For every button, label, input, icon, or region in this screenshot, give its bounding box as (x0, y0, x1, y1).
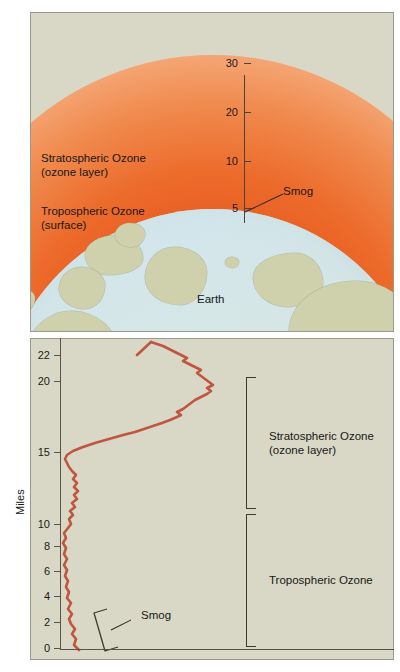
profile-x-axis-line (60, 649, 394, 650)
altitude-tick-10 (244, 161, 251, 162)
earth-label: Earth (197, 293, 225, 305)
y-tick-20 (54, 381, 61, 382)
y-label-22: 22 (18, 349, 50, 361)
altitude-label-20: 20 (210, 106, 238, 118)
altitude-tick-20 (244, 112, 251, 113)
y-tick-15 (54, 452, 61, 453)
smog-label-bottom: Smog (141, 609, 171, 621)
tropospheric-label-bottom: Tropospheric Ozone (269, 573, 373, 587)
y-label-8: 8 (18, 540, 50, 552)
altitude-tick-30 (244, 63, 251, 64)
y-tick-4 (54, 596, 61, 597)
y-tick-2 (54, 622, 61, 623)
y-label-0: 0 (18, 642, 50, 654)
stratospheric-label-bottom: Stratospheric Ozone (ozone layer) (269, 429, 374, 457)
altitude-label-5: 5 (210, 202, 238, 214)
atmosphere-earth-diagram: 30 20 10 5 Smog Stratospheric Ozone (ozo… (30, 12, 394, 332)
y-tick-6 (54, 571, 61, 572)
tropospheric-bracket (246, 514, 256, 647)
tropospheric-label-bottom-line1: Tropospheric Ozone (269, 573, 373, 587)
smog-label-top: Smog (283, 185, 313, 197)
y-tick-8 (54, 546, 61, 547)
y-axis-title: Miles (14, 489, 26, 515)
stratospheric-label-bottom-line1: Stratospheric Ozone (269, 429, 374, 443)
profile-y-axis-line (60, 338, 61, 649)
ozone-profile-chart: Smog Stratospheric Ozone (ozone layer) T… (30, 338, 394, 660)
stratospheric-label-bottom-line2: (ozone layer) (269, 443, 374, 457)
tropospheric-label-top-line1: Tropospheric Ozone (41, 204, 145, 218)
y-label-10: 10 (18, 518, 50, 530)
y-label-20: 20 (18, 375, 50, 387)
y-label-15: 15 (18, 446, 50, 458)
y-tick-0 (54, 648, 61, 649)
y-tick-10 (54, 524, 61, 525)
altitude-label-10: 10 (210, 155, 238, 167)
stratospheric-label-top-line2: (ozone layer) (41, 165, 146, 179)
stratospheric-bracket (246, 377, 256, 509)
ozone-profile-curve (31, 339, 393, 659)
ozone-figure: 30 20 10 5 Smog Stratospheric Ozone (ozo… (0, 0, 400, 672)
landmass-canada (59, 267, 105, 309)
tropospheric-label-top-line2: (surface) (41, 218, 145, 232)
stratospheric-label-top-line1: Stratospheric Ozone (41, 151, 146, 165)
landmass-iceland (225, 257, 239, 268)
y-tick-22 (54, 355, 61, 356)
tropospheric-label-top: Tropospheric Ozone (surface) (41, 204, 145, 232)
y-label-2: 2 (18, 616, 50, 628)
altitude-label-30: 30 (210, 57, 238, 69)
y-label-4: 4 (18, 590, 50, 602)
y-label-6: 6 (18, 565, 50, 577)
stratospheric-label-top: Stratospheric Ozone (ozone layer) (41, 151, 146, 179)
